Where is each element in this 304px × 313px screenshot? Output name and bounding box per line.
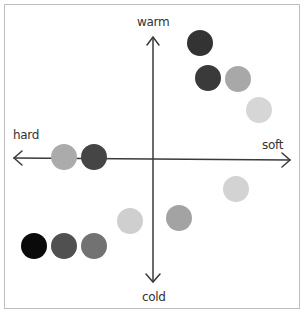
color-dot <box>195 65 221 91</box>
color-dot <box>246 97 272 123</box>
axis-label-hard: hard <box>13 128 39 142</box>
color-dot <box>51 144 77 170</box>
color-dot <box>81 233 107 259</box>
color-dot <box>81 144 107 170</box>
color-dot <box>223 176 249 202</box>
color-dot <box>166 205 192 231</box>
axis-label-warm: warm <box>137 15 169 29</box>
color-dot <box>225 66 251 92</box>
axis-label-cold: cold <box>142 290 166 304</box>
color-dot <box>117 208 143 234</box>
axis-label-soft: soft <box>262 138 283 152</box>
axes <box>0 0 304 313</box>
color-dot <box>187 30 213 56</box>
color-dot <box>51 233 77 259</box>
color-dot <box>21 233 47 259</box>
